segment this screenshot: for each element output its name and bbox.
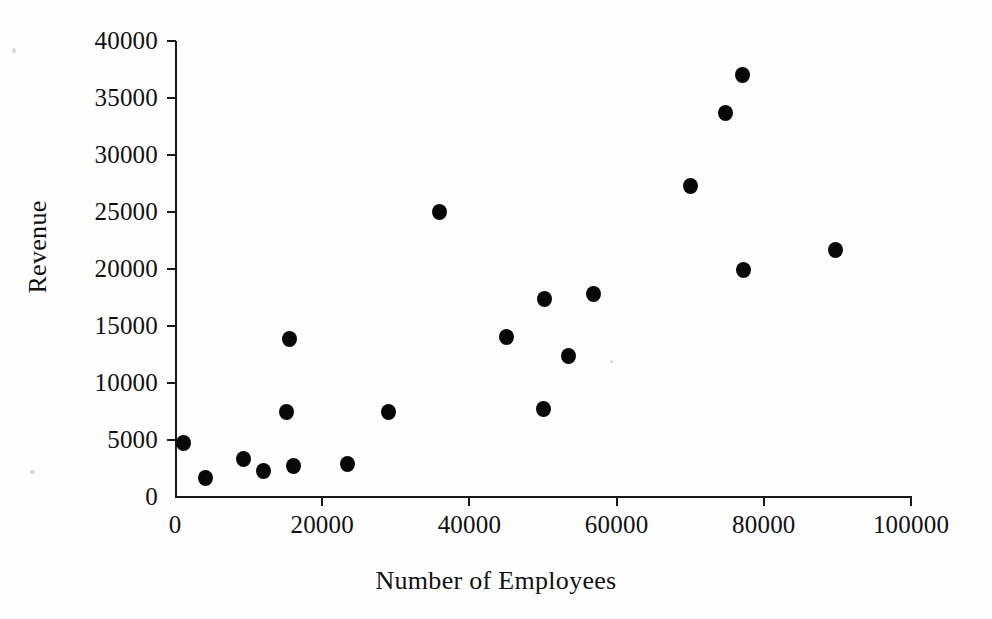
data-point xyxy=(176,435,191,451)
y-axis-tick-label: 15000 xyxy=(95,313,159,338)
data-point xyxy=(536,401,551,417)
x-axis-tick xyxy=(468,497,470,506)
y-axis-tick-label: 35000 xyxy=(95,85,159,110)
data-point xyxy=(561,348,576,364)
x-axis-tick xyxy=(763,497,765,506)
data-point xyxy=(198,470,213,486)
data-point xyxy=(282,331,297,347)
x-axis-tick xyxy=(910,497,912,506)
x-axis-tick-label: 40000 xyxy=(438,512,502,537)
y-axis-tick-label: 0 xyxy=(145,484,158,509)
x-axis-tick-label: 100000 xyxy=(873,512,949,537)
y-axis-tick-label: 40000 xyxy=(95,28,159,53)
data-point xyxy=(236,451,251,467)
data-point xyxy=(828,242,843,258)
scatter-chart-figure: 0500010000150002000025000300003500040000… xyxy=(0,0,992,619)
y-axis-title: Revenue xyxy=(23,147,53,347)
x-axis-tick-label: 20000 xyxy=(290,512,354,537)
data-point xyxy=(718,105,733,121)
data-point xyxy=(683,178,698,194)
data-point xyxy=(286,458,301,474)
x-axis-title: Number of Employees xyxy=(0,566,992,596)
data-point xyxy=(432,204,447,220)
x-axis-tick-label: 80000 xyxy=(732,512,796,537)
data-point xyxy=(537,291,552,307)
x-axis-tick-label: 0 xyxy=(169,512,182,537)
x-axis-tick-label: 60000 xyxy=(585,512,649,537)
plot-area xyxy=(175,41,911,497)
x-axis-tick xyxy=(321,497,323,506)
data-point xyxy=(381,404,396,420)
data-point xyxy=(279,404,294,420)
data-point xyxy=(499,329,514,345)
data-point xyxy=(586,286,601,302)
data-point xyxy=(736,262,751,278)
y-axis-tick-label: 10000 xyxy=(95,370,159,395)
y-axis-tick-label: 20000 xyxy=(95,256,159,281)
y-axis-tick-label: 30000 xyxy=(95,142,159,167)
data-point xyxy=(340,456,355,472)
data-point xyxy=(735,67,750,83)
x-axis-tick xyxy=(616,497,618,506)
y-axis-tick-label: 25000 xyxy=(95,199,159,224)
y-axis-tick-label: 5000 xyxy=(107,427,158,452)
data-point xyxy=(256,463,271,479)
